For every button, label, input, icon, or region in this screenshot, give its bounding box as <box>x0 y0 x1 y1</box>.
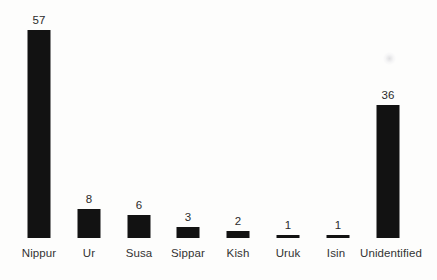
bar-group-susa: 6 <box>114 0 164 238</box>
bar-chart: 57 8 6 3 2 1 1 <box>0 0 437 280</box>
bar-value-ur: 8 <box>86 193 93 206</box>
bar-value-sippar: 3 <box>185 211 192 224</box>
bar-group-sippar: 3 <box>163 0 213 238</box>
bar-value-susa: 6 <box>136 199 143 212</box>
plot-area: 57 8 6 3 2 1 1 <box>0 0 437 280</box>
bar-sippar[interactable] <box>177 227 200 238</box>
bar-unidentified[interactable] <box>377 105 400 238</box>
bar-group-unidentified: 36 <box>363 0 413 238</box>
bar-value-nippur: 57 <box>32 14 45 27</box>
bar-group-kish: 2 <box>213 0 263 238</box>
bar-value-unidentified: 36 <box>381 89 394 102</box>
bar-group-ur: 8 <box>64 0 114 238</box>
bar-ur[interactable] <box>78 209 101 238</box>
bar-group-isin: 1 <box>313 0 363 238</box>
bar-susa[interactable] <box>128 215 151 238</box>
bar-value-isin: 1 <box>335 219 342 232</box>
bar-group-uruk: 1 <box>263 0 313 238</box>
bar-uruk[interactable] <box>277 235 300 238</box>
bar-isin[interactable] <box>327 235 350 238</box>
bar-group-nippur: 57 <box>14 0 64 238</box>
bar-value-uruk: 1 <box>285 219 292 232</box>
bar-kish[interactable] <box>227 231 250 238</box>
bar-nippur[interactable] <box>28 30 51 238</box>
bar-value-kish: 2 <box>235 215 242 228</box>
